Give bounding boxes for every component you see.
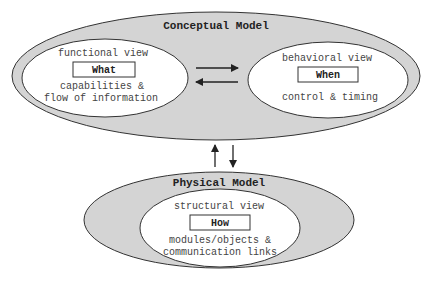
structural-view-label: structural view bbox=[174, 201, 264, 212]
functional-view-label: functional view bbox=[58, 48, 148, 59]
when-label: When bbox=[316, 70, 340, 81]
functional-view: functional view What capabilities & flow… bbox=[22, 39, 188, 117]
behavioral-desc-1: control & timing bbox=[282, 92, 378, 103]
behavioral-view-label: behavioral view bbox=[282, 53, 372, 64]
behavioral-view: behavioral view When control & timing bbox=[248, 42, 408, 118]
conceptual-model: Conceptual Model functional view What ca… bbox=[12, 12, 420, 140]
physical-model-title: Physical Model bbox=[173, 177, 266, 189]
structural-desc-2: communication links bbox=[163, 247, 277, 258]
functional-desc-2: flow of information bbox=[44, 93, 158, 104]
functional-desc-1: capabilities & bbox=[60, 81, 144, 92]
structural-view: structural view How modules/objects & co… bbox=[140, 189, 300, 267]
what-label: What bbox=[92, 65, 116, 76]
how-label: How bbox=[211, 218, 229, 229]
structural-desc-1: modules/objects & bbox=[169, 235, 271, 246]
conceptual-model-title: Conceptual Model bbox=[163, 20, 269, 32]
diagram-canvas: Conceptual Model functional view What ca… bbox=[0, 0, 432, 282]
physical-model: Physical Model structural view How modul… bbox=[84, 172, 354, 268]
